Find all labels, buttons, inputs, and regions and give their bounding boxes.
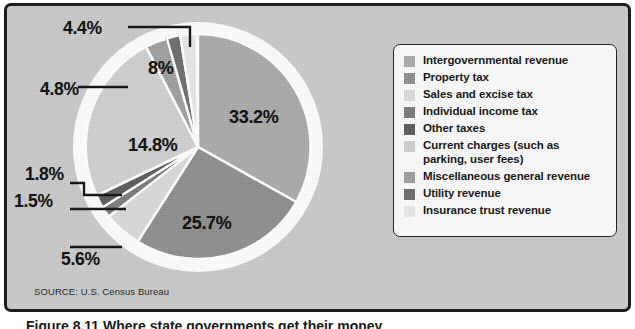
figure-caption: Figure 8.11 Where state governments get …	[26, 318, 626, 329]
legend-swatch-icon	[404, 73, 415, 84]
legend-item-insurance-trust-revenue[interactable]: Insurance trust revenue	[404, 204, 609, 218]
legend-swatch-icon	[404, 90, 415, 101]
legend-swatch-icon	[404, 189, 415, 200]
legend-label: Current charges (such as parking, user f…	[423, 139, 601, 166]
legend-label: Miscellaneous general revenue	[423, 170, 590, 184]
pie-label-other-taxes: 1.8%	[25, 164, 64, 185]
legend-swatch-icon	[404, 124, 415, 135]
legend-item-sales-and-excise-tax[interactable]: Sales and excise tax	[404, 88, 609, 102]
legend-label: Utility revenue	[423, 187, 501, 201]
pie-chart-svg	[70, 19, 326, 275]
pie-label-miscellaneous-general-revenue: 4.8%	[40, 79, 79, 100]
legend-box: Intergovernmental revenue Property tax S…	[393, 44, 617, 237]
pie-label-utility-revenue: 8%	[148, 58, 173, 79]
legend-item-individual-income-tax[interactable]: Individual income tax	[404, 105, 609, 119]
legend-label: Other taxes	[423, 122, 485, 136]
pie-label-current-charges: 14.8%	[128, 135, 178, 156]
legend-item-current-charges[interactable]: Current charges (such as parking, user f…	[404, 139, 609, 166]
legend-label: Individual income tax	[423, 105, 538, 119]
pie-label-individual-income-tax: 1.5%	[14, 191, 53, 212]
legend-label: Property tax	[423, 71, 489, 85]
legend-swatch-icon	[404, 172, 415, 183]
chart-panel: 33.2% 25.7% 14.8% 8% 4.4% 4.8% 1.8% 1.5%…	[4, 3, 631, 312]
pie-label-sales-and-excise-tax: 5.6%	[61, 249, 100, 270]
legend-swatch-icon	[404, 141, 415, 152]
legend-item-other-taxes[interactable]: Other taxes	[404, 122, 609, 136]
legend-label: Intergovernmental revenue	[423, 54, 568, 68]
legend-label: Insurance trust revenue	[423, 204, 551, 218]
figure-container: 33.2% 25.7% 14.8% 8% 4.4% 4.8% 1.8% 1.5%…	[0, 0, 635, 329]
legend-item-utility-revenue[interactable]: Utility revenue	[404, 187, 609, 201]
legend-label: Sales and excise tax	[423, 88, 533, 102]
legend-item-property-tax[interactable]: Property tax	[404, 71, 609, 85]
pie-label-insurance-trust-revenue: 4.4%	[63, 18, 102, 39]
source-note: SOURCE: U.S. Census Bureau	[34, 286, 169, 297]
legend-item-intergovernmental-revenue[interactable]: Intergovernmental revenue	[404, 54, 609, 68]
legend-swatch-icon	[404, 107, 415, 118]
pie-label-property-tax: 25.7%	[182, 213, 232, 234]
legend-swatch-icon	[404, 206, 415, 217]
legend-item-miscellaneous-general-revenue[interactable]: Miscellaneous general revenue	[404, 170, 609, 184]
legend-swatch-icon	[404, 56, 415, 67]
pie-label-intergovernmental-revenue: 33.2%	[229, 107, 279, 128]
